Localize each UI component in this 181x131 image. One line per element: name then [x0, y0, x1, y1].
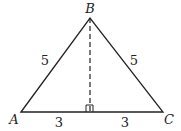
vertex-label-c: C — [164, 112, 174, 127]
base-label-right: 3 — [121, 115, 129, 130]
side-label-ab: 5 — [41, 53, 49, 68]
triangle-diagram: B A C 5 5 3 3 — [0, 0, 181, 131]
side-label-bc: 5 — [130, 53, 138, 68]
base-label-left: 3 — [55, 115, 63, 130]
vertex-label-a: A — [8, 112, 18, 127]
vertex-label-b: B — [84, 1, 95, 16]
